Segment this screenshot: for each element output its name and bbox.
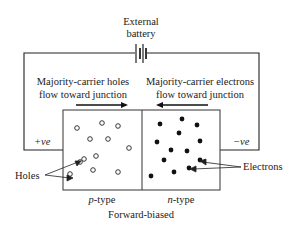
hole xyxy=(116,170,121,175)
left-flow-label-line2: flow toward junction xyxy=(39,89,128,100)
electrons-flow-arrow xyxy=(156,102,208,108)
p-type-suffix: -type xyxy=(94,194,116,205)
battery-label-line2: battery xyxy=(126,28,156,39)
holes-group xyxy=(68,121,132,177)
negative-terminal-label: −ve xyxy=(233,136,250,147)
electron xyxy=(169,148,174,153)
electron xyxy=(195,123,200,128)
electrons-callout-arrows xyxy=(190,159,241,172)
hole xyxy=(88,137,93,142)
pn-junction-diagram: External battery Majority-carrier holes … xyxy=(0,0,299,227)
holes-callout-label: Holes xyxy=(15,170,40,181)
electron xyxy=(172,170,177,175)
p-type-label: p-type xyxy=(88,194,116,205)
n-type-suffix: -type xyxy=(173,194,195,205)
hole xyxy=(75,126,80,131)
hole xyxy=(91,168,96,173)
electron xyxy=(149,174,154,179)
electron xyxy=(177,131,182,136)
holes-flow-arrow xyxy=(76,102,128,108)
electron xyxy=(180,117,185,122)
electron xyxy=(198,139,203,144)
electron xyxy=(185,149,190,154)
hole xyxy=(100,121,105,126)
electron xyxy=(162,158,167,163)
electrons-callout-label: Electrons xyxy=(243,161,283,172)
battery-icon xyxy=(136,44,146,63)
right-flow-label-line2: flow toward junction xyxy=(156,89,245,100)
n-type-label: n-type xyxy=(168,194,195,205)
positive-terminal-label: +ve xyxy=(34,136,51,147)
hole xyxy=(82,157,87,162)
right-flow-label-line1: Majority-carrier electrons xyxy=(146,76,254,87)
battery-label-line1: External xyxy=(123,16,159,27)
electron xyxy=(155,140,160,145)
left-flow-label-line1: Majority-carrier holes xyxy=(37,76,129,87)
electron xyxy=(158,122,163,127)
hole xyxy=(116,124,121,129)
caption-forward-biased: Forward-biased xyxy=(108,209,175,220)
hole xyxy=(127,146,132,151)
hole xyxy=(106,137,111,142)
hole xyxy=(94,154,99,159)
